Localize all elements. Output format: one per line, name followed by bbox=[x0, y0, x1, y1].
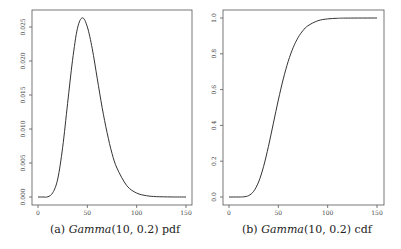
y-tick-label: 0.025 bbox=[19, 18, 26, 35]
x-tick-label: 0 bbox=[36, 209, 40, 216]
caption-params: (10, 0.2) bbox=[111, 223, 158, 236]
y-tick-label: 0.015 bbox=[19, 86, 26, 103]
pdf-caption: (a) Gamma(10, 0.2) pdf bbox=[50, 223, 180, 236]
x-tick-label: 150 bbox=[180, 209, 192, 216]
y-tick-label: 0.6 bbox=[210, 85, 217, 95]
x-tick-label: 50 bbox=[84, 209, 92, 216]
caption-label: (b) bbox=[242, 223, 258, 236]
cdf-panel: 0501001500.00.20.40.60.81.0 bbox=[210, 10, 384, 216]
series-line bbox=[229, 18, 377, 197]
caption-distribution: Gamma bbox=[69, 223, 112, 236]
x-tick-label: 100 bbox=[322, 209, 334, 216]
y-tick-label: 0.0 bbox=[210, 192, 217, 202]
y-tick-label: 0.000 bbox=[19, 188, 26, 205]
y-tick-label: 0.005 bbox=[19, 154, 26, 171]
caption-distribution: Gamma bbox=[261, 223, 304, 236]
cdf-caption: (b) Gamma(10, 0.2) cdf bbox=[242, 223, 372, 236]
caption-suffix: pdf bbox=[162, 223, 180, 236]
y-tick-label: 0.010 bbox=[19, 120, 26, 137]
y-tick-label: 0.4 bbox=[210, 120, 217, 130]
pdf-panel: 0501001500.0000.0050.0100.0150.0200.025 bbox=[19, 10, 192, 216]
y-tick-label: 0.8 bbox=[210, 49, 217, 59]
caption-label: (a) bbox=[50, 223, 65, 236]
chart-figure: 0501001500.0000.0050.0100.0150.0200.025 … bbox=[0, 0, 401, 249]
x-tick-label: 150 bbox=[371, 209, 383, 216]
y-tick-label: 0.2 bbox=[210, 156, 217, 166]
series-line bbox=[38, 18, 186, 197]
caption-suffix: cdf bbox=[354, 223, 371, 236]
x-tick-label: 0 bbox=[227, 209, 231, 216]
plot-frame bbox=[223, 10, 384, 205]
plot-frame bbox=[32, 10, 192, 205]
x-tick-label: 100 bbox=[131, 209, 143, 216]
y-tick-label: 0.020 bbox=[19, 52, 26, 69]
x-tick-label: 50 bbox=[275, 209, 283, 216]
y-tick-label: 1.0 bbox=[210, 13, 217, 23]
caption-params: (10, 0.2) bbox=[304, 223, 351, 236]
